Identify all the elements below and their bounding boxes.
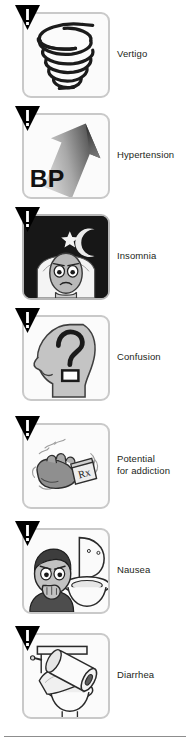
list-item-label: Potential for addiction — [117, 415, 190, 515]
bottom-divider — [4, 736, 186, 737]
list-item[interactable]: Diarrhea — [0, 625, 190, 725]
list-item-label: Hypertension — [117, 105, 190, 205]
warning-triangle-icon — [14, 4, 41, 34]
list-item[interactable]: Rx Potential for addiction — [0, 415, 190, 515]
warning-triangle-icon — [14, 625, 41, 655]
list-item[interactable]: Vertigo — [0, 4, 190, 104]
list-item[interactable]: Confusion — [0, 307, 190, 407]
bp-text: BP — [30, 165, 64, 192]
list-item-label: Nausea — [117, 520, 190, 620]
list-item[interactable]: Nausea — [0, 520, 190, 620]
warning-triangle-icon — [14, 520, 41, 550]
list-item-label: Insomnia — [117, 206, 190, 306]
list-item[interactable]: Insomnia — [0, 206, 190, 306]
warning-triangle-icon — [14, 307, 41, 337]
warning-triangle-icon — [14, 206, 41, 236]
list-item[interactable]: BP Hypertension — [0, 105, 190, 205]
warning-triangle-icon — [14, 105, 41, 135]
side-effects-list: Vertigo — [0, 0, 190, 730]
list-item-label: Confusion — [117, 307, 190, 407]
list-item-label: Diarrhea — [117, 625, 190, 725]
warning-triangle-icon — [14, 415, 41, 445]
list-item-label: Vertigo — [117, 4, 190, 104]
